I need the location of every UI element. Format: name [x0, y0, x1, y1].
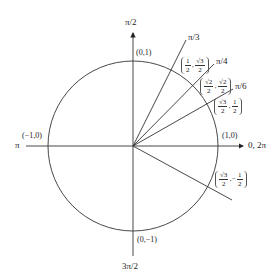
label-3pi-2: 3π/2	[122, 262, 138, 271]
label-pi-2: π/2	[125, 18, 137, 27]
label-pi-3: π/3	[188, 33, 200, 42]
label-pi-6: π/6	[235, 82, 247, 91]
coord-minus-pi-6: √32, − 12	[215, 171, 247, 188]
point-right: (1,0)	[222, 132, 237, 140]
point-top: (0,1)	[136, 49, 151, 57]
coord-pi-4: √22, √22	[200, 78, 231, 95]
coord-pi-6: √32, 12	[214, 98, 242, 115]
point-left: (−1,0)	[22, 132, 42, 140]
point-bottom: (0,−1)	[137, 236, 157, 244]
unit-circle-diagram: π/2 3π/2 π 0, 2π (0,1) (1,0) (−1,0) (0,−…	[0, 0, 280, 280]
label-0-2pi: 0, 2π	[248, 141, 266, 150]
label-pi: π	[15, 141, 20, 150]
label-pi-4: π/4	[216, 57, 228, 66]
ray-pi-4	[133, 64, 214, 146]
coord-pi-3: 12, √32	[181, 57, 209, 74]
